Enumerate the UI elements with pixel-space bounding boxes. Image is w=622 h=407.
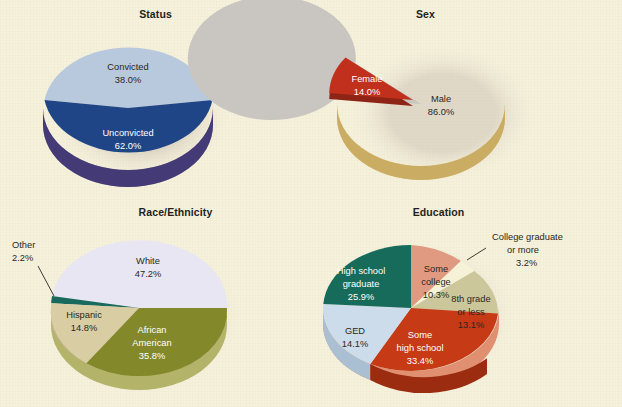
callout-value-other: 2.2%: [12, 253, 33, 263]
slice-value-some-college: 10.3%: [423, 290, 449, 300]
slice-label-female: Female: [351, 74, 382, 84]
slice-label-african-american-1: African: [138, 325, 167, 335]
slice-label-high-school-graduate-2: graduate: [343, 279, 380, 289]
slice-label-hispanic: Hispanic: [66, 310, 102, 320]
slice-value-8th-grade: 13.1%: [458, 320, 484, 330]
slice-label-some-high-school-2: high school: [396, 343, 443, 353]
pie-chart-race: White 47.2% African American 35.8% Hispa…: [0, 206, 311, 407]
slice-value-male: 86.0%: [428, 107, 454, 117]
slice-label-white: White: [136, 256, 160, 266]
callout-leader-other: [38, 266, 54, 296]
slice-label-some-college-1: Some: [424, 264, 448, 274]
chart-panel-race: Race/Ethnicity White 47.2% African Ameri…: [0, 206, 311, 407]
chart-title-education: Education: [283, 206, 594, 218]
slice-label-african-american-2: American: [132, 338, 171, 348]
callout-label-college-graduate-2: or more: [507, 245, 539, 255]
chart-title-sex: Sex: [270, 8, 581, 20]
slice-value-high-school-graduate: 25.9%: [348, 292, 374, 302]
slice-value-some-high-school: 33.4%: [407, 356, 433, 366]
chart-panel-sex: Sex Male 86.0% Female 14.0%: [311, 8, 622, 204]
pie-chart-sex: Male 86.0% Female 14.0%: [311, 8, 622, 204]
slice-value-hispanic: 14.8%: [71, 323, 97, 333]
slice-label-8th-grade-1: 8th grade: [451, 294, 490, 304]
slice-value-ged: 14.1%: [342, 339, 368, 349]
slice-label-unconvicted: Unconvicted: [102, 128, 153, 138]
slice-value-unconvicted: 62.0%: [115, 141, 141, 151]
slice-label-ged: GED: [345, 326, 365, 336]
callout-label-other: Other: [12, 240, 35, 250]
slice-value-african-american: 35.8%: [139, 351, 165, 361]
slice-label-8th-grade-2: or less: [457, 307, 485, 317]
slice-label-high-school-graduate-1: High school: [337, 266, 386, 276]
pie-chart-education: Some college 10.3% 8th grade or less 13.…: [311, 206, 622, 407]
slice-value-white: 47.2%: [135, 269, 161, 279]
slice-label-some-high-school-1: Some: [408, 330, 432, 340]
slice-value-female: 14.0%: [354, 87, 380, 97]
slice-label-male: Male: [431, 94, 451, 104]
slice-label-convicted: Convicted: [107, 62, 148, 72]
callout-label-college-graduate-1: College graduate: [492, 232, 563, 242]
slice-label-some-college-2: college: [421, 277, 450, 287]
chart-panel-education: Education Some college 10.3% 8th gr: [311, 206, 622, 407]
callout-value-college-graduate: 3.2%: [516, 258, 537, 268]
slice-value-convicted: 38.0%: [115, 75, 141, 85]
